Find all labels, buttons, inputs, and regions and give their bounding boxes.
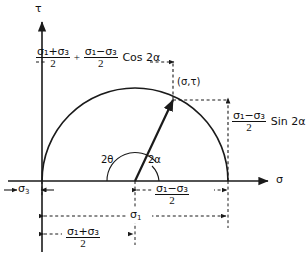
- point-label: (σ,τ): [177, 77, 200, 87]
- tau-axis-label: τ: [35, 3, 42, 14]
- center-dimension-label: σ₁+σ₃ 2: [66, 226, 100, 249]
- sigma1-subscript: 1: [137, 214, 141, 222]
- sigma1-label: σ1: [130, 209, 141, 222]
- sigma3-label: σ3: [18, 183, 29, 196]
- sigma3-subscript: 3: [25, 188, 29, 196]
- angle-2theta-label: 2θ: [101, 155, 113, 165]
- top-expression-plus: +: [73, 52, 81, 63]
- sigma-axis-label: σ: [276, 174, 283, 185]
- right-expression-label: σ₁−σ₃ 2 Sin 2α: [232, 110, 306, 133]
- center-dimension-fraction: σ₁+σ₃ 2: [66, 226, 100, 249]
- mohrs-circle-figure: τ σ σ₁+σ₃ 2 + σ₁−σ₃ 2 Cos 2α (σ,τ) σ₁−σ₃…: [0, 0, 307, 260]
- angle-2alpha-label: 2α: [148, 155, 161, 165]
- top-expression-tail: Cos 2α: [120, 52, 160, 63]
- top-expression-fraction-2: σ₁−σ₃ 2: [84, 46, 118, 69]
- right-expression-fraction: σ₁−σ₃ 2: [232, 110, 266, 133]
- top-expression-fraction-1: σ₁+σ₃ 2: [36, 46, 70, 69]
- angle-2alpha-arc: [152, 166, 159, 181]
- radius-dimension-label: σ₁−σ₃ 2: [155, 183, 189, 206]
- sigma1-symbol: σ: [130, 208, 137, 221]
- sigma3-symbol: σ: [18, 182, 25, 195]
- mohr-semicircle: [42, 88, 228, 181]
- top-expression-label: σ₁+σ₃ 2 + σ₁−σ₃ 2 Cos 2α: [36, 46, 160, 69]
- right-expression-tail: Sin 2α: [269, 116, 306, 127]
- radius-dimension-fraction: σ₁−σ₃ 2: [155, 183, 189, 206]
